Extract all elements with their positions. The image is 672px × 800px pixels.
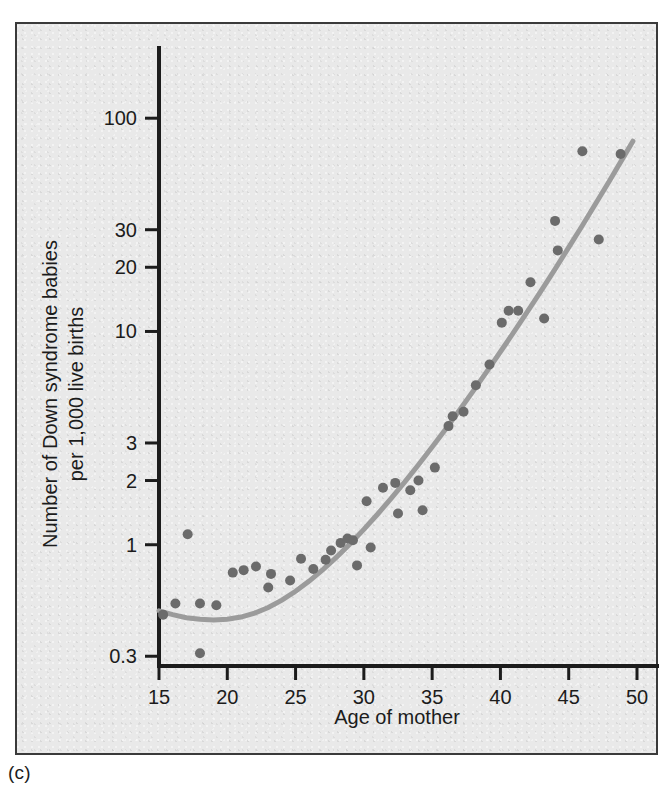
data-point — [594, 234, 604, 244]
data-point — [539, 314, 549, 324]
data-point — [485, 360, 495, 370]
data-point — [352, 560, 362, 570]
data-point — [577, 146, 587, 156]
x-axis-ticks: 1520253035404550 — [148, 666, 648, 708]
x-tick-label: 30 — [353, 686, 375, 708]
data-point — [378, 483, 388, 493]
y-tick-label: 0.3 — [109, 645, 137, 667]
data-point — [430, 463, 440, 473]
data-point — [390, 478, 400, 488]
data-point — [251, 562, 261, 572]
data-point — [228, 568, 238, 578]
data-point — [195, 648, 205, 658]
y-tick-label: 30 — [115, 219, 137, 241]
data-point — [158, 610, 168, 620]
y-axis-ticks: 0.3123102030100 — [104, 107, 159, 667]
figure-caption: (c) — [8, 762, 31, 784]
data-point — [362, 496, 372, 506]
x-tick-label: 20 — [216, 686, 238, 708]
x-tick-label: 15 — [148, 686, 170, 708]
x-tick-label: 35 — [421, 686, 443, 708]
y-tick-label: 10 — [115, 320, 137, 342]
data-point — [459, 407, 469, 417]
figure-panel: 0.3123102030100 1520253035404550 Age of … — [15, 22, 658, 755]
data-point — [366, 543, 376, 553]
y-tick-label: 3 — [126, 432, 137, 454]
data-point — [211, 600, 221, 610]
data-point — [183, 529, 193, 539]
scatter-points — [158, 146, 626, 658]
y-tick-label: 20 — [115, 256, 137, 278]
x-axis-title: Age of mother — [334, 706, 460, 728]
y-axis-title-line1: Number of Down syndrome babies — [39, 240, 61, 548]
data-point — [405, 485, 415, 495]
data-point — [418, 505, 428, 515]
data-point — [348, 535, 358, 545]
data-point — [285, 575, 295, 585]
x-tick-label: 50 — [626, 686, 648, 708]
data-point — [326, 545, 336, 555]
data-point — [616, 149, 626, 159]
data-point — [321, 555, 331, 565]
x-tick-label: 25 — [284, 686, 306, 708]
data-point — [170, 599, 180, 609]
data-point — [553, 245, 563, 255]
data-point — [471, 380, 481, 390]
data-point — [266, 569, 276, 579]
y-tick-label: 2 — [126, 470, 137, 492]
data-point — [296, 554, 306, 564]
x-tick-label: 45 — [558, 686, 580, 708]
data-point — [550, 216, 560, 226]
data-point — [513, 306, 523, 316]
data-point — [497, 318, 507, 328]
data-point — [448, 411, 458, 421]
data-point — [239, 565, 249, 575]
y-axis-title: Number of Down syndrome babies per 1,000… — [39, 240, 87, 548]
y-tick-label: 100 — [104, 107, 137, 129]
fit-curve — [159, 141, 633, 620]
data-point — [413, 476, 423, 486]
data-point — [504, 306, 514, 316]
data-point — [444, 421, 454, 431]
y-axis-title-line2: per 1,000 live births — [65, 307, 87, 482]
data-point — [393, 509, 403, 519]
y-tick-label: 1 — [126, 534, 137, 556]
chart-plot: 0.3123102030100 1520253035404550 Age of … — [17, 24, 660, 757]
data-point — [308, 564, 318, 574]
data-point — [195, 599, 205, 609]
data-point — [263, 583, 273, 593]
x-tick-label: 40 — [489, 686, 511, 708]
data-point — [525, 277, 535, 287]
